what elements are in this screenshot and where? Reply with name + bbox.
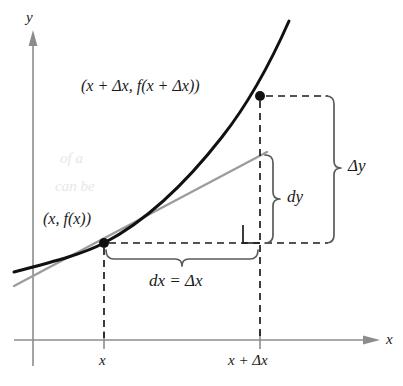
function-curve [14, 21, 289, 272]
x-axis-label: x [386, 332, 393, 347]
dashed-construction-lines [104, 96, 328, 338]
brace-label-delta-y: Δy [348, 157, 366, 174]
diagram-canvas [0, 0, 403, 386]
brace-dy [265, 155, 280, 243]
tick-label-x: x [99, 353, 106, 368]
tick-label-x-plus-dx: x + Δx [228, 353, 268, 368]
point-label-x: (x, f(x)) [43, 211, 91, 227]
point-marker-x-plus-dx [255, 91, 265, 101]
point-marker-x [99, 238, 109, 248]
y-axis-label: y [26, 10, 33, 25]
brace-delta-y [326, 96, 341, 243]
differential-diagram: of a can be [0, 0, 403, 386]
x-axis-arrowhead [363, 335, 380, 344]
point-label-x-plus-dx: (x + Δx, f(x + Δx)) [81, 78, 200, 94]
brace-label-dx: dx = Δx [149, 272, 203, 289]
right-angle-marker [243, 225, 260, 243]
brace-label-dy: dy [287, 188, 303, 205]
y-axis-arrowhead [29, 30, 38, 46]
brace-dx [106, 250, 258, 266]
